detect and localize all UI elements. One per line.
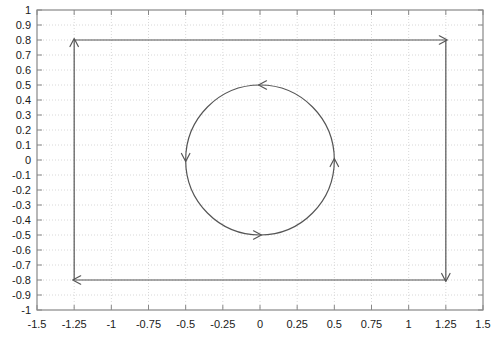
y-tick-label: 0.6 (16, 64, 31, 76)
x-tick-label: 0.75 (361, 318, 382, 330)
y-tick-label: -1 (21, 304, 31, 316)
y-tick-label: 0.9 (16, 19, 31, 31)
x-tick-label: -0.75 (136, 318, 161, 330)
y-tick-label: -0.9 (12, 289, 31, 301)
y-tick-label: -0.2 (12, 184, 31, 196)
x-tick-label: -0.5 (176, 318, 195, 330)
x-tick-label: -1.25 (62, 318, 87, 330)
y-tick-label: 0 (25, 154, 31, 166)
x-tick-label: 0.25 (286, 318, 307, 330)
y-tick-label: -0.4 (12, 214, 31, 226)
x-tick-label: 1.5 (475, 318, 490, 330)
y-tick-label: 0.5 (16, 79, 31, 91)
y-tick-label: -0.7 (12, 259, 31, 271)
y-tick-label: 0.7 (16, 49, 31, 61)
x-tick-label: -0.25 (210, 318, 235, 330)
y-tick-label: 0.8 (16, 34, 31, 46)
y-tick-label: -0.5 (12, 229, 31, 241)
y-tick-label: -0.3 (12, 199, 31, 211)
y-tick-label: 0.4 (16, 94, 31, 106)
y-tick-label: 1 (25, 4, 31, 16)
y-tick-label: -0.1 (12, 169, 31, 181)
x-tick-label: -1 (106, 318, 116, 330)
chart-figure: -1.5-1.25-1-0.75-0.5-0.2500.250.50.7511.… (0, 0, 497, 337)
y-tick-label: -0.6 (12, 244, 31, 256)
x-tick-label: 0.5 (327, 318, 342, 330)
y-tick-label: 0.3 (16, 109, 31, 121)
y-tick-label: -0.8 (12, 274, 31, 286)
x-tick-label: 1 (406, 318, 412, 330)
plot-area: -1.5-1.25-1-0.75-0.5-0.2500.250.50.7511.… (0, 0, 497, 337)
x-tick-label: -1.5 (28, 318, 47, 330)
x-tick-label: 0 (257, 318, 263, 330)
y-tick-label: 0.1 (16, 139, 31, 151)
x-tick-label: 1.25 (435, 318, 456, 330)
y-tick-label: 0.2 (16, 124, 31, 136)
